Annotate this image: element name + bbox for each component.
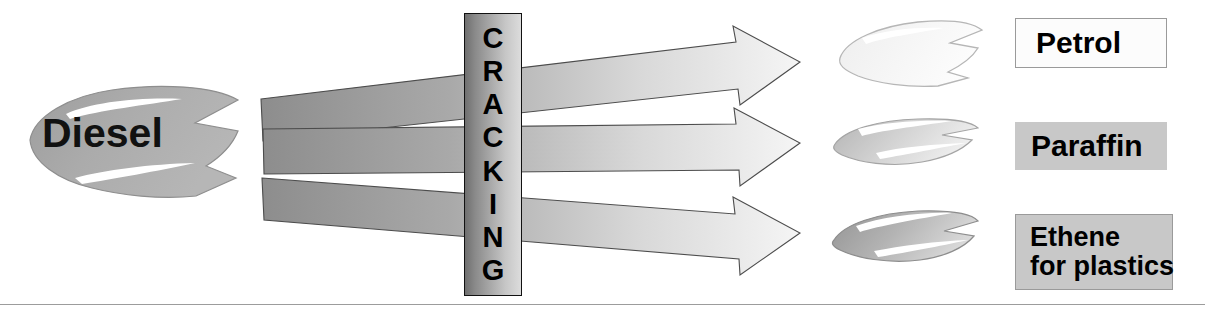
ethene-blob <box>832 211 978 261</box>
output-label-paraffin-line-1: Paraffin <box>1031 129 1143 163</box>
arrow-to-ethene <box>262 178 800 275</box>
output-label-petrol-line-1: Petrol <box>1036 26 1121 60</box>
output-label-petrol[interactable]: Petrol <box>1015 18 1167 68</box>
petrol-blob <box>840 21 982 87</box>
output-label-ethene[interactable]: Ethene for plastics <box>1015 214 1173 290</box>
cracking-letter-1: C <box>483 24 504 53</box>
cracking-diagram: Diesel C R A C K I N G Petrol Paraffin E… <box>0 0 1205 315</box>
cracking-letter-8: G <box>482 256 505 285</box>
cracking-letter-6: I <box>489 190 497 219</box>
output-label-ethene-line-1: Ethene <box>1030 223 1120 252</box>
diesel-label: Diesel <box>42 110 163 157</box>
arrow-to-ethene-body <box>262 178 800 275</box>
output-label-ethene-line-2: for plastics <box>1030 252 1174 281</box>
paraffin-blob <box>834 119 978 165</box>
bottom-divider <box>0 304 1205 305</box>
cracking-process-box[interactable]: C R A C K I N G <box>464 13 522 296</box>
cracking-letter-5: K <box>483 157 504 186</box>
cracking-letter-4: C <box>483 123 504 152</box>
output-label-paraffin[interactable]: Paraffin <box>1015 122 1167 170</box>
cracking-letter-3: A <box>483 90 504 119</box>
cracking-letter-2: R <box>483 57 504 86</box>
cracking-letter-7: N <box>483 223 504 252</box>
